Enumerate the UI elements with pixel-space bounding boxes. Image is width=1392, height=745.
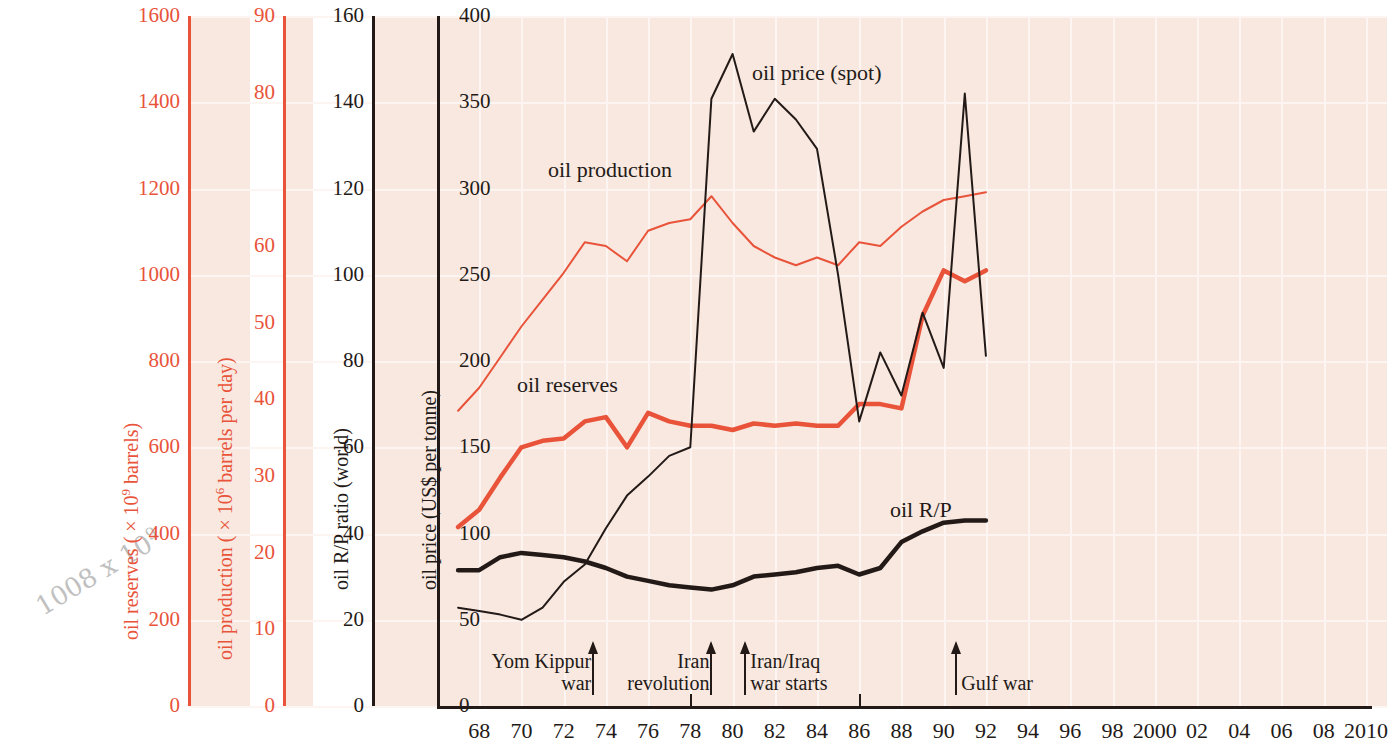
series-label-oil-production: oil production [548,157,672,183]
axis-tick-production: 90 [185,5,275,26]
x-axis-label: 72 [542,718,586,744]
axis-tick-rp: 0 [274,695,364,716]
axis-tick-reserves: 1600 [90,5,180,26]
event-label-line1: Iran [481,650,709,672]
x-axis-label: 86 [837,718,881,744]
axis-tick-price: 300 [459,178,519,199]
axis-tick-rp: 140 [274,91,364,112]
axis-title-production: oil production ( × 106 barrels per day) [212,357,237,660]
axis-tick-rp: 160 [274,5,364,26]
axis-title-text: oil production ( × 10 [214,494,236,660]
x-axis-label: 70 [499,718,543,744]
event-label-line1: Iran/Iraq [750,650,980,672]
x-axis-tickmark [690,694,692,706]
axis-tick-price: 350 [459,91,519,112]
axis-title-reserves: oil reserves ( × 109 barrels) [118,423,143,640]
event-label-line2: revolution [481,672,709,694]
series-label-oil-reserves: oil reserves [517,372,618,398]
event-label-iran-iraq-war-starts: Iran/Iraqwar starts [750,650,980,694]
axis-tick-reserves: 1200 [90,178,180,199]
x-axis-label: 90 [922,718,966,744]
axis-tick-reserves: 800 [90,350,180,371]
x-axis-label: 92 [964,718,1008,744]
axis-tick-reserves: 0 [90,695,180,716]
axis-tick-rp: 80 [274,350,364,371]
x-axis-label: 74 [584,718,628,744]
axis-title-text: oil price (US$ per tonne) [418,390,440,590]
axis-title-text: oil reserves ( × 10 [120,495,142,640]
axis-spine-rp [372,16,375,706]
axis-tick-rp: 120 [274,178,364,199]
axis-tick-production: 80 [185,82,275,103]
event-label-line2: Gulf war [961,672,1191,694]
axis-tick-price: 150 [459,436,519,457]
axis-tick-price: 100 [459,523,519,544]
x-axis-label: 88 [879,718,923,744]
axis-tick-production: 60 [185,235,275,256]
axis-tick-price: 400 [459,5,519,26]
event-arrowhead-gulf-war [951,641,961,654]
x-axis-label: 78 [668,718,712,744]
x-axis-label: 84 [795,718,839,744]
axis-spine-reserves [188,16,191,706]
x-axis-line [437,706,1372,709]
x-axis-label: 80 [711,718,755,744]
x-axis-label: 06 [1259,718,1303,744]
axis-title-rp: oil R/P ratio (world) [330,428,353,590]
x-axis-label: 94 [1006,718,1050,744]
series-label-oil-price-spot: oil price (spot) [752,60,882,86]
axis-title-text-tail: barrels) [120,423,142,489]
axis-tick-price: 50 [459,609,519,630]
x-axis-label: 76 [626,718,670,744]
series-label-oil-rp: oil R/P [890,497,952,523]
axis-tick-production: 0 [185,695,275,716]
axis-title-exponent: 6 [212,488,227,495]
event-label-line1 [961,650,1191,672]
event-arrowhead-iran-iraq-war-starts [740,641,750,654]
event-label-gulf-war: Gulf war [961,650,1191,694]
x-axis-label: 04 [1217,718,1261,744]
axis-title-exponent: 9 [118,489,133,496]
x-axis-label: 82 [753,718,797,744]
event-label-iran-revolution: Iranrevolution [481,650,709,694]
series-line-oil-reserves [458,270,986,527]
x-axis-label: 2010 [1331,718,1392,744]
series-line-oil-r-p [458,521,986,590]
axis-tick-reserves: 1000 [90,264,180,285]
axis-title-price: oil price (US$ per tonne) [418,390,441,590]
x-axis-label: 02 [1175,718,1219,744]
event-label-line2: war starts [750,672,980,694]
axis-title-text: oil R/P ratio (world) [330,428,352,590]
axis-tick-reserves: 1400 [90,91,180,112]
x-axis-label: 96 [1048,718,1092,744]
x-axis-label: 68 [457,718,501,744]
axis-tick-production: 50 [185,312,275,333]
axis-tick-rp: 20 [274,609,364,630]
series-line-oil-price-spot- [458,54,986,620]
x-axis-tickmark [859,694,861,706]
axis-spine-price [437,16,440,706]
axis-title-text-tail: barrels per day) [214,357,236,488]
axis-tick-price: 200 [459,350,519,371]
axis-tick-rp: 100 [274,264,364,285]
axis-tick-price: 250 [459,264,519,285]
